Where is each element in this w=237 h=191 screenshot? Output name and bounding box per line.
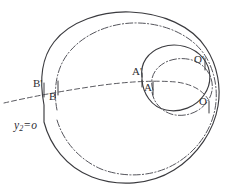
outer-spiral-dashdot-curve bbox=[55, 23, 216, 175]
label-o: O bbox=[199, 96, 207, 107]
label-equation-y2-equals-o: y2=o bbox=[14, 120, 37, 133]
equation-value: o bbox=[31, 119, 37, 131]
outer-spiral-solid-curve bbox=[42, 12, 219, 183]
equation-subscript: 2 bbox=[19, 124, 23, 133]
label-b: B bbox=[49, 91, 56, 102]
figure-canvas: A' A B' B O' O y2=o bbox=[0, 0, 237, 191]
label-a-prime: A' bbox=[132, 66, 142, 77]
label-o-prime: O' bbox=[194, 54, 204, 65]
label-b-prime: B' bbox=[33, 78, 42, 89]
label-a: A bbox=[144, 82, 152, 93]
